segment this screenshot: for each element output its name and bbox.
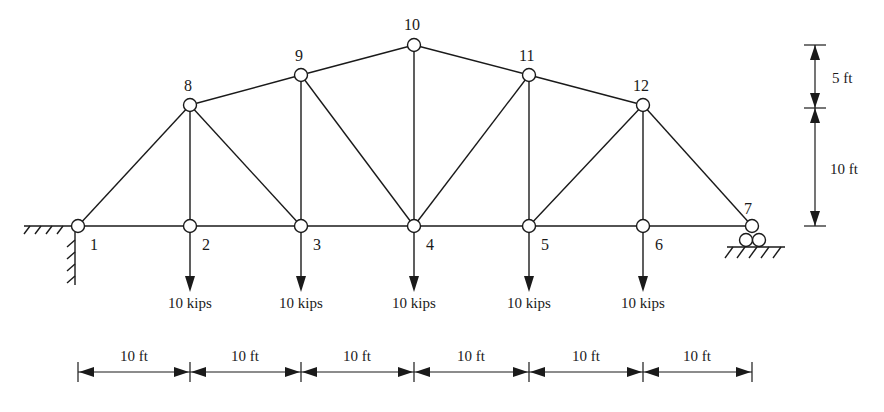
load-labels: 10 kips 10 kips 10 kips 10 kips 10 kips xyxy=(168,295,665,311)
truss-diagram: 1 2 3 4 5 6 7 8 9 10 11 12 10 kips 10 ki… xyxy=(0,0,884,412)
member-11-4 xyxy=(414,75,529,226)
load-label-2: 10 kips xyxy=(168,295,212,311)
node-9 xyxy=(295,69,308,82)
node-12 xyxy=(637,99,650,112)
member-12-5 xyxy=(529,105,643,226)
node-label-4: 4 xyxy=(426,236,434,253)
node-label-6: 6 xyxy=(655,236,663,253)
node-label-3: 3 xyxy=(313,236,321,253)
load-label-3: 10 kips xyxy=(279,295,323,311)
node-7 xyxy=(746,220,759,233)
load-arrow-icon xyxy=(638,233,648,292)
node-label-2: 2 xyxy=(202,236,210,253)
node-3 xyxy=(295,220,308,233)
node-8 xyxy=(184,99,197,112)
node-label-1: 1 xyxy=(90,236,98,253)
truss-members xyxy=(78,45,752,226)
node-label-7: 7 xyxy=(744,200,752,217)
node-5 xyxy=(523,220,536,233)
horizontal-dimension-line xyxy=(78,362,752,382)
node-label-11: 11 xyxy=(519,47,534,64)
hdim-label-2: 10 ft xyxy=(231,348,260,364)
horizontal-dimension-labels: 10 ft 10 ft 10 ft 10 ft 10 ft 10 ft xyxy=(120,348,712,364)
vertical-dimension-line xyxy=(804,45,826,226)
pin-support-left xyxy=(24,226,78,285)
load-label-5: 10 kips xyxy=(507,295,551,311)
hdim-label-4: 10 ft xyxy=(457,348,486,364)
roller-support-right xyxy=(725,234,785,259)
member-11-12 xyxy=(529,75,643,105)
node-label-5: 5 xyxy=(541,236,549,253)
load-label-6: 10 kips xyxy=(621,295,665,311)
load-arrow-icon xyxy=(185,233,195,292)
hdim-label-3: 10 ft xyxy=(343,348,372,364)
hdim-label-1: 10 ft xyxy=(120,348,149,364)
node-label-8: 8 xyxy=(184,77,192,94)
vdim-label-lower: 10 ft xyxy=(830,161,859,177)
member-1-8 xyxy=(78,105,190,226)
load-arrows xyxy=(185,233,648,292)
member-10-11 xyxy=(414,45,529,75)
member-9-10 xyxy=(301,45,414,75)
node-label-10: 10 xyxy=(404,16,420,33)
node-label-9: 9 xyxy=(295,47,303,64)
member-8-3 xyxy=(190,105,301,226)
node-11 xyxy=(523,69,536,82)
node-label-12: 12 xyxy=(633,77,649,94)
truss-nodes xyxy=(72,39,759,233)
load-label-4: 10 kips xyxy=(392,295,436,311)
node-2 xyxy=(184,220,197,233)
member-8-9 xyxy=(190,75,301,105)
node-1 xyxy=(72,220,85,233)
hdim-label-6: 10 ft xyxy=(683,348,712,364)
node-6 xyxy=(637,220,650,233)
vdim-label-upper: 5 ft xyxy=(832,70,853,86)
load-arrow-icon xyxy=(296,233,306,292)
hdim-label-5: 10 ft xyxy=(572,348,601,364)
load-arrow-icon xyxy=(524,233,534,292)
member-12-7 xyxy=(643,105,752,226)
member-9-4 xyxy=(301,75,414,226)
load-arrow-icon xyxy=(409,233,419,292)
node-10 xyxy=(408,39,421,52)
node-4 xyxy=(408,220,421,233)
